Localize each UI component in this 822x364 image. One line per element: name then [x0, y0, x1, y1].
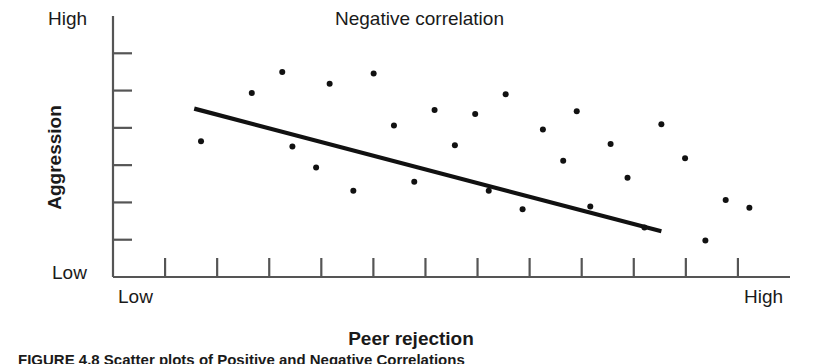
data-point	[411, 179, 417, 185]
data-point	[560, 158, 566, 164]
figure-caption: FIGURE 4.8 Scatter plots of Positive and…	[18, 352, 808, 364]
data-point	[608, 141, 614, 147]
data-point	[746, 205, 752, 211]
data-point	[279, 69, 285, 75]
data-point	[702, 237, 708, 243]
data-point	[452, 142, 458, 148]
chart-title: Negative correlation	[335, 9, 504, 28]
data-point	[350, 188, 356, 194]
figure-container: Negative correlation High Low Low High A…	[0, 0, 822, 364]
y-axis-title: Aggression	[45, 83, 64, 233]
data-point	[520, 206, 526, 212]
data-point	[486, 188, 492, 194]
x-axis-title: Peer rejection	[0, 329, 822, 348]
trend-line	[194, 109, 661, 232]
data-point	[472, 111, 478, 117]
x-axis-low-tick-label: Low	[118, 287, 153, 306]
y-axis-low-tick-label: Low	[52, 263, 87, 282]
data-point	[587, 204, 593, 210]
data-point	[658, 121, 664, 127]
data-point	[313, 164, 319, 170]
data-point	[327, 81, 333, 87]
x-axis-high-tick-label: High	[744, 287, 783, 306]
scatter-plot-svg	[0, 0, 822, 364]
data-point	[503, 91, 509, 97]
data-point	[540, 127, 546, 133]
data-point	[682, 155, 688, 161]
data-point	[625, 175, 631, 181]
data-point	[723, 197, 729, 203]
y-axis-high-tick-label: High	[48, 9, 87, 28]
data-point	[432, 107, 438, 113]
data-point	[641, 224, 647, 230]
data-point	[574, 108, 580, 114]
data-point	[371, 70, 377, 76]
data-point	[198, 138, 204, 144]
data-point	[249, 90, 255, 96]
data-point	[391, 123, 397, 129]
data-point	[289, 144, 295, 150]
